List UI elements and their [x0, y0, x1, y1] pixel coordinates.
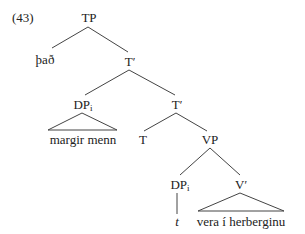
- prime-mark: ′: [244, 178, 247, 192]
- node-dp-1: DPi: [73, 98, 92, 115]
- node-tbar-1: T′: [125, 55, 136, 69]
- node-label: DP: [73, 97, 90, 112]
- node-vbar: V′: [235, 178, 247, 192]
- node-vp: VP: [202, 133, 219, 147]
- tree-edges: [0, 0, 305, 234]
- index-subscript: i: [90, 103, 93, 113]
- node-tbar-2: T′: [172, 98, 183, 112]
- node-label: T: [125, 54, 133, 69]
- node-tp: TP: [81, 11, 96, 25]
- node-spec-tp: það: [36, 53, 55, 67]
- node-trace: t: [175, 215, 179, 229]
- node-label: DP: [170, 177, 187, 192]
- node-dp-2: DPi: [170, 178, 189, 195]
- prime-mark: ′: [180, 98, 183, 112]
- node-dp-1-yield: margir menn: [50, 133, 117, 147]
- prime-mark: ′: [133, 55, 136, 69]
- node-label: V: [235, 177, 244, 192]
- index-subscript: i: [187, 183, 190, 193]
- node-vbar-yield: vera í herberginu: [197, 215, 286, 229]
- node-label: T: [172, 97, 180, 112]
- example-number: (43): [12, 11, 34, 25]
- node-t-head: T: [139, 133, 147, 147]
